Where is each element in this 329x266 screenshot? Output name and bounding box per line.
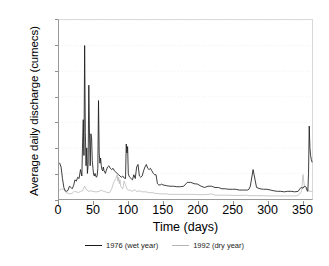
legend-label: 1992 (dry year) — [193, 241, 244, 250]
x-tick-mark — [268, 201, 269, 205]
series-lines — [59, 20, 312, 199]
x-tick-mark — [93, 201, 94, 205]
x-tick-mark — [58, 201, 59, 205]
legend-entry: 1992 (dry year) — [172, 241, 244, 250]
x-tick-mark — [128, 201, 129, 205]
chart-figure: Average daily discharge (cumecs) 0102030… — [0, 0, 329, 266]
x-axis-title: Time (days) — [58, 220, 313, 234]
x-tick-mark — [163, 201, 164, 205]
series-line — [60, 46, 312, 192]
legend-entry: 1976 (wet year) — [85, 241, 158, 250]
legend-swatch — [172, 245, 189, 246]
x-tick-label: 350 — [280, 204, 326, 217]
x-tick-mark — [198, 201, 199, 205]
legend-swatch — [85, 245, 102, 246]
legend-label: 1976 (wet year) — [106, 241, 158, 250]
y-axis-title: Average daily discharge (cumecs) — [28, 6, 40, 216]
x-tick-mark — [303, 201, 304, 205]
x-tick-mark — [233, 201, 234, 205]
series-line — [60, 175, 312, 196]
chart-legend: 1976 (wet year)1992 (dry year) — [0, 241, 329, 250]
plot-area — [58, 19, 313, 200]
